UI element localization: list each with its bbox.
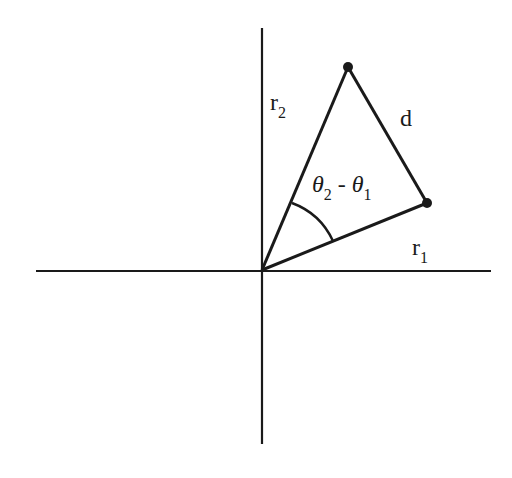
point-p1 <box>422 198 432 208</box>
polar-distance-diagram: r2 d θ2-θ1 r1 <box>0 0 512 478</box>
label-r2: r2 <box>270 89 286 121</box>
label-angle: θ2-θ1 <box>312 171 372 203</box>
label-r1: r1 <box>412 234 428 266</box>
angle-arc <box>292 203 333 241</box>
point-p2 <box>343 62 353 72</box>
label-d: d <box>400 105 412 131</box>
